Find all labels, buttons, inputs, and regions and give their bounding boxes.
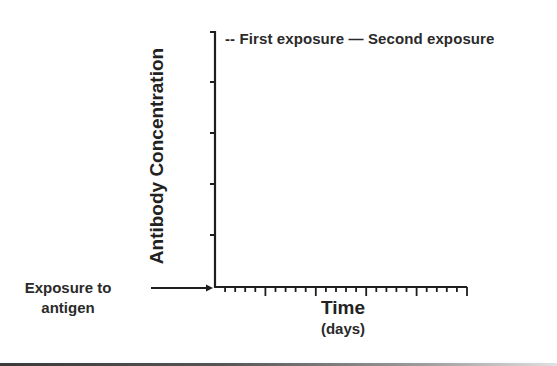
legend-first-label: First exposure [239, 30, 344, 47]
exposure-line-2: antigen [25, 298, 112, 318]
x-ticks [225, 287, 467, 296]
chart-legend: -- First exposure — Second exposure [225, 30, 494, 47]
exposure-annotation: Exposure to antigen [25, 278, 112, 318]
legend-second-label: Second exposure [368, 30, 495, 47]
exposure-line-1: Exposure to [25, 278, 112, 298]
legend-second-symbol: — [349, 30, 364, 47]
x-axis-label: Time [321, 297, 365, 319]
legend-first-symbol: -- [225, 30, 235, 47]
y-axis-label: Antibody Concentration [146, 48, 168, 264]
x-axis-unit: (days) [321, 320, 365, 337]
exposure-arrow [151, 285, 213, 292]
